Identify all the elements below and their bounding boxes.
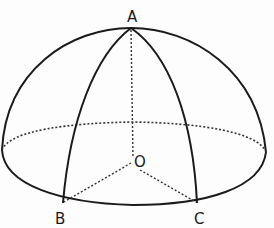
- diagram-svg: A O B C: [0, 0, 274, 228]
- hemisphere-diagram: A O B C: [0, 0, 274, 228]
- base-circle-back: [2, 122, 266, 152]
- label-O: O: [134, 153, 146, 171]
- label-A: A: [127, 8, 138, 26]
- radius-OC: [140, 170, 196, 202]
- arc-AB: [63, 28, 131, 203]
- radius-OB: [64, 163, 131, 202]
- hemisphere-outline: [2, 28, 266, 152]
- label-C: C: [194, 210, 204, 228]
- radius-OA: [131, 30, 133, 158]
- label-B: B: [55, 210, 65, 228]
- arc-AC: [131, 28, 197, 203]
